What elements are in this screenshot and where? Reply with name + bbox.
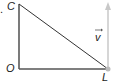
- vector-overarrow-icon: [101, 29, 103, 32]
- label-o: O: [6, 63, 15, 74]
- label-c: C: [7, 1, 15, 12]
- vector-v-arrowhead-icon: [105, 2, 111, 10]
- stray-mark: .: [0, 4, 3, 15]
- label-l: L: [102, 72, 108, 83]
- label-v: v: [95, 32, 101, 43]
